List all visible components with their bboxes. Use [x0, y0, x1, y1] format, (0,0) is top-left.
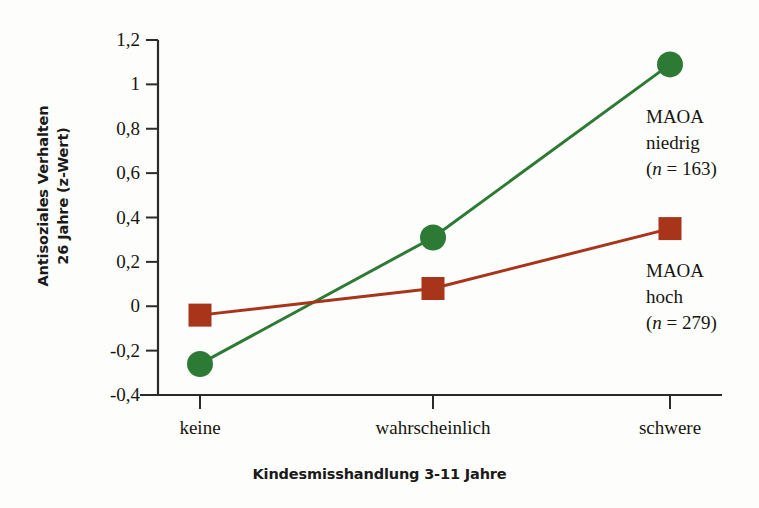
y-axis-tick-label: 0,4	[78, 208, 140, 227]
legend-low-line2: niedrig	[646, 130, 717, 156]
y-axis-ticks	[146, 40, 158, 395]
data-point-square	[422, 277, 445, 300]
data-point-circle	[420, 224, 446, 250]
y-axis-tick-label: 1,2	[78, 30, 140, 49]
y-axis-tick-label: 0,2	[78, 252, 140, 271]
data-point-circle	[657, 51, 683, 77]
x-axis-tick-label: schwere	[639, 417, 701, 439]
data-point-square	[659, 217, 682, 240]
data-point-circle	[187, 351, 213, 377]
y-axis-tick-label: -0,4	[78, 385, 140, 404]
x-axis-tick-label: wahrscheinlich	[375, 417, 490, 439]
y-axis-tick-label: 0	[78, 296, 140, 315]
x-axis-ticks	[200, 395, 670, 409]
data-point-square	[189, 304, 212, 327]
legend-high-line1: MAOA	[646, 258, 717, 284]
x-axis-title: Kindesmisshandlung 3-11 Jahre	[0, 466, 759, 482]
x-axis-tick-label: keine	[179, 417, 220, 439]
series-line	[200, 64, 670, 364]
legend-high-line3: (n = 279)	[646, 310, 717, 336]
y-axis-tick-label: 0,6	[78, 163, 140, 182]
legend-high-line2: hoch	[646, 284, 717, 310]
y-axis-tick-label: 1	[78, 74, 140, 93]
legend-low-line1: MAOA	[646, 104, 717, 130]
legend-low-line3: (n = 163)	[646, 156, 717, 182]
chart-container: Antisoziales Verhalten 26 Jahre (z-Wert)…	[0, 0, 759, 508]
legend-maoa-hoch: MAOA hoch (n = 279)	[646, 258, 717, 337]
series-layer	[187, 51, 683, 377]
y-axis-tick-label: -0,2	[78, 341, 140, 360]
y-axis-tick-label: 0,8	[78, 119, 140, 138]
legend-maoa-niedrig: MAOA niedrig (n = 163)	[646, 104, 717, 183]
